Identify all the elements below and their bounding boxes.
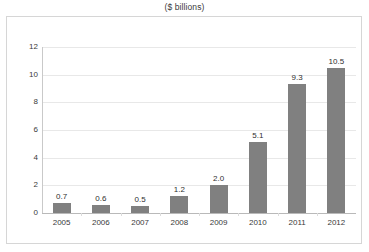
- bar: [170, 196, 188, 213]
- x-tick-label: 2005: [42, 218, 81, 228]
- y-tick-label: 0: [4, 209, 38, 217]
- bar-value-label: 2.0: [213, 174, 224, 183]
- x-tick-label: 2010: [238, 218, 277, 228]
- x-tick-label: 2008: [160, 218, 199, 228]
- y-tick-label: 10: [4, 71, 38, 79]
- bar-group: 1.2: [160, 47, 199, 213]
- bar-value-label: 10.5: [329, 57, 345, 66]
- y-tick-label: 2: [4, 181, 38, 189]
- x-tick-label: 2006: [81, 218, 120, 228]
- y-tick-label: 12: [4, 43, 38, 51]
- bar-value-label: 9.3: [292, 73, 303, 82]
- bar-chart: ($ billions) 024681012 0.70.60.51.22.05.…: [0, 0, 369, 252]
- y-axis-tick-labels: 024681012: [0, 47, 38, 213]
- bar-value-label: 0.5: [135, 195, 146, 204]
- x-axis-tick-labels: 20052006200720082009201020112012: [42, 218, 356, 232]
- x-tick-label: 2009: [199, 218, 238, 228]
- x-tick-label: 2011: [278, 218, 317, 228]
- bar: [327, 68, 345, 213]
- bar: [249, 142, 267, 213]
- bar-value-label: 0.6: [95, 194, 106, 203]
- bar-group: 10.5: [317, 47, 356, 213]
- chart-title: ($ billions): [0, 1, 369, 13]
- y-tick-label: 4: [4, 154, 38, 162]
- bar-group: 0.6: [81, 47, 120, 213]
- x-axis-tick-mark: [238, 213, 239, 216]
- y-tick-label: 8: [4, 98, 38, 106]
- x-axis-tick-mark: [121, 213, 122, 216]
- bar-group: 9.3: [278, 47, 317, 213]
- bar-value-label: 0.7: [56, 192, 67, 201]
- bar-group: 0.7: [42, 47, 81, 213]
- x-axis-tick-mark: [278, 213, 279, 216]
- bar: [288, 84, 306, 213]
- bar-value-label: 5.1: [252, 131, 263, 140]
- x-axis-tick-mark: [81, 213, 82, 216]
- bar-group: 5.1: [238, 47, 277, 213]
- bar: [53, 203, 71, 213]
- bar-group: 0.5: [121, 47, 160, 213]
- x-axis-tick-mark: [199, 213, 200, 216]
- x-tick-label: 2012: [317, 218, 356, 228]
- bar-series: 0.70.60.51.22.05.19.310.5: [42, 47, 356, 213]
- x-axis-tick-mark: [317, 213, 318, 216]
- bar-group: 2.0: [199, 47, 238, 213]
- x-tick-label: 2007: [121, 218, 160, 228]
- bar: [210, 185, 228, 213]
- x-axis-tick-mark: [160, 213, 161, 216]
- bar-value-label: 1.2: [174, 185, 185, 194]
- y-tick-label: 6: [4, 126, 38, 134]
- bar: [131, 206, 149, 213]
- bar: [92, 205, 110, 213]
